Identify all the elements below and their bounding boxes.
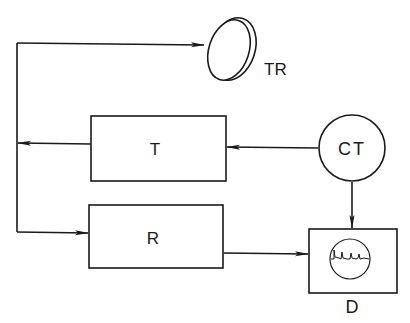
transmitter-label: T <box>150 140 160 159</box>
display-box <box>309 229 397 293</box>
edge-receiver-to-display <box>224 253 308 254</box>
transducer-label: TR <box>264 60 287 79</box>
receiver-label: R <box>147 229 159 248</box>
transducer-disc <box>200 12 263 86</box>
edge-to-transducer <box>17 43 204 45</box>
clock-timer-label: CT <box>338 139 366 159</box>
edge-t-to-bus <box>18 143 91 144</box>
edge-bus-to-receiver <box>17 232 88 233</box>
block-diagram: TR T CT R D <box>0 0 410 323</box>
edge-ct-to-transmitter <box>227 147 318 148</box>
echo-trace-icon <box>331 250 369 259</box>
signal-bus <box>17 43 352 254</box>
display-label: D <box>346 297 359 317</box>
